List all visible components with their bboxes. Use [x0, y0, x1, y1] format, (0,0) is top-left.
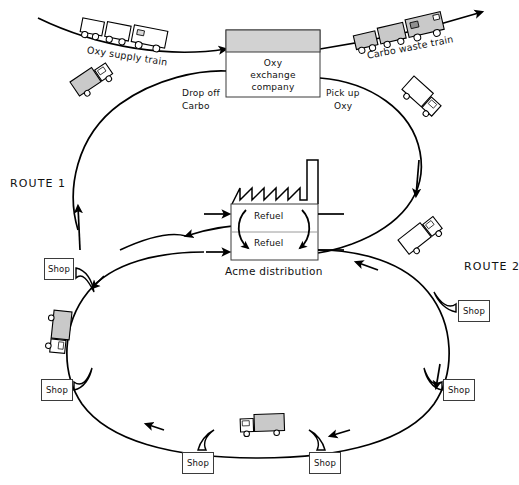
- truck-icon-route2-left: [45, 310, 72, 354]
- shop-spur-4: [309, 430, 325, 450]
- route2-arrow-bottom-left: [146, 424, 164, 430]
- route1-left-arrow-seg: [78, 206, 80, 250]
- truck-icon-route2-right: [398, 214, 445, 258]
- route-2-label: ROUTE 2: [464, 261, 519, 274]
- shop-box[interactable]: Shop: [458, 300, 490, 322]
- shop-box[interactable]: Shop: [182, 452, 214, 474]
- route2-arrow-bottom-right: [330, 430, 350, 436]
- route2-arrow-left-upper: [92, 276, 104, 288]
- drop-off-carbo-label-line2: Carbo: [182, 101, 210, 112]
- shop-spur-2: [74, 368, 92, 390]
- drop-off-carbo-label-line1: Drop off: [182, 88, 220, 99]
- oxy-exchange-label-line1: Oxy: [226, 58, 320, 69]
- route-1-label: ROUTE 1: [10, 178, 66, 191]
- oxy-exchange-label-line3: company: [226, 82, 320, 93]
- oxy-exchange-label-line2: exchange: [226, 70, 320, 81]
- acme-distribution-label: Acme distribution: [225, 265, 323, 277]
- shop-box[interactable]: Shop: [309, 452, 341, 474]
- route2-arrow-right-upper: [356, 262, 378, 270]
- route1-lower-feed: [120, 235, 186, 250]
- diagram-canvas: Oxy supply train Carbo waste train Oxy e…: [0, 0, 519, 485]
- pick-up-oxy-label-line2: Oxy: [334, 101, 352, 112]
- shop-spur-6: [434, 292, 456, 312]
- truck-icon-route1-right: [399, 76, 444, 120]
- refuel-upper-label: Refuel: [254, 211, 284, 222]
- factory-roof-outline: [232, 160, 318, 204]
- shop-label: Shop: [48, 264, 70, 274]
- shop-box[interactable]: Shop: [41, 379, 73, 401]
- pick-up-oxy-label-line1: Pick up: [326, 88, 360, 99]
- truck-icon-route1-left: [70, 60, 115, 100]
- shop-label: Shop: [463, 306, 485, 316]
- shop-box[interactable]: Shop: [44, 258, 74, 280]
- shop-label: Shop: [187, 458, 209, 468]
- shop-label: Shop: [314, 458, 336, 468]
- shop-label: Shop: [46, 385, 68, 395]
- truck-icon-route2-bottom: [240, 413, 285, 436]
- refuel-lower-label: Refuel: [254, 238, 284, 249]
- shop-box[interactable]: Shop: [443, 379, 475, 401]
- shop-spur-3: [198, 430, 214, 450]
- shop-label: Shop: [448, 385, 470, 395]
